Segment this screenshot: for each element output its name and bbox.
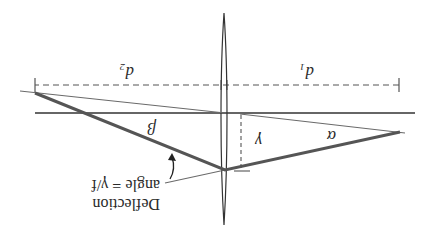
rotated-diagram-group: d₁ d₂ β γ α Deflection angle = γ/f [20,13,415,225]
label-gamma: γ [254,132,262,151]
label-beta: β [147,119,157,138]
deflection-label-line1: Deflection [92,196,160,213]
deflection-arrow [168,153,176,179]
thin-ray-right [240,114,405,133]
thin-ray-left [20,91,225,113]
label-d2: d₂ [120,63,135,82]
deflection-label-line2: angle = γ/f [91,176,160,194]
label-d1: d₁ [300,63,314,82]
dimension-line [35,78,399,92]
thin-lens [221,13,227,225]
refracted-ray [35,93,400,170]
height-marker [234,115,250,171]
lens-deflection-diagram: d₁ d₂ β γ α Deflection angle = γ/f [0,0,424,231]
deflection-reference-line [165,170,225,183]
label-alpha: α [326,127,336,146]
